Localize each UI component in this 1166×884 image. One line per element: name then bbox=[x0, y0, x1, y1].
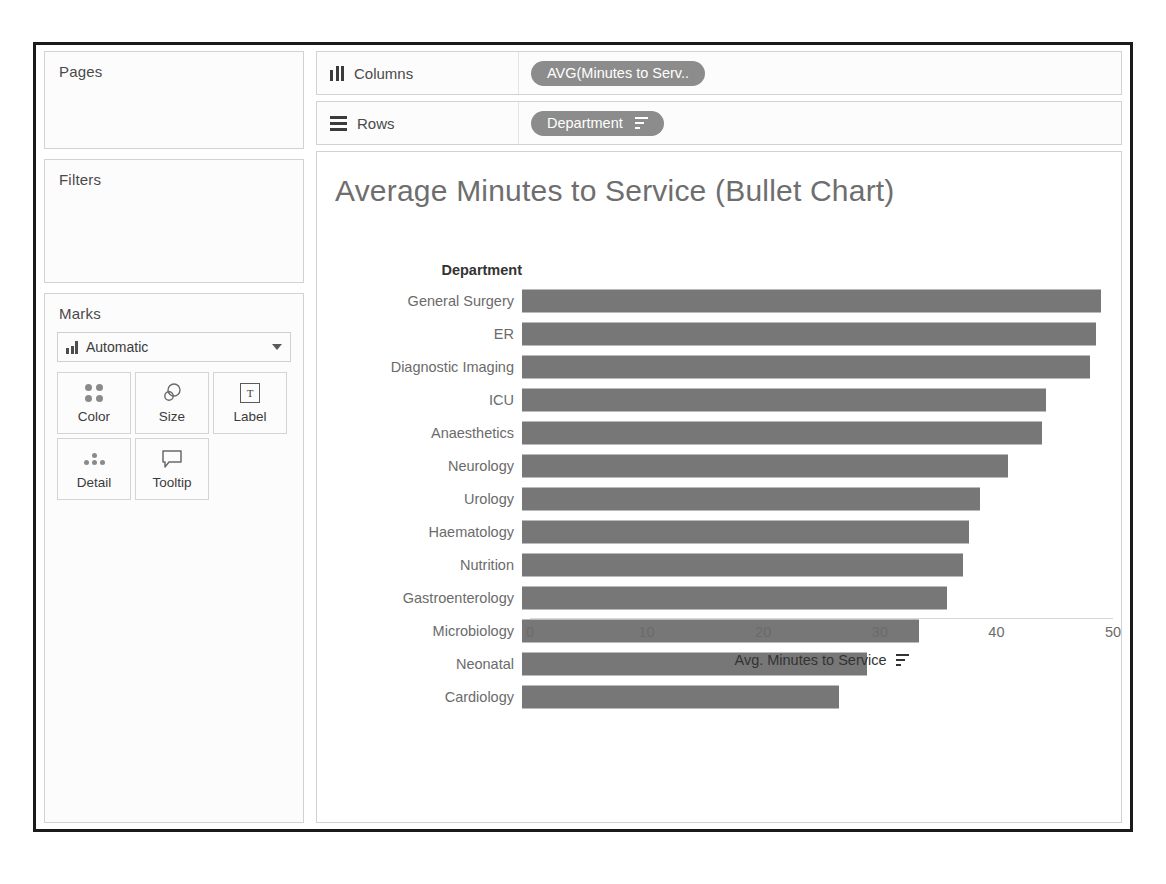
bar-mark[interactable] bbox=[522, 553, 963, 576]
bar-track bbox=[522, 548, 1121, 581]
bar-track bbox=[522, 449, 1121, 482]
marks-card-title: Marks bbox=[45, 294, 303, 322]
x-tick-label: 20 bbox=[755, 624, 771, 640]
row-label-nutrition[interactable]: Nutrition bbox=[317, 557, 522, 573]
columns-shelf[interactable]: Columns AVG(Minutes to Serv.. bbox=[316, 51, 1122, 95]
chart-view-pane[interactable]: Average Minutes to Service (Bullet Chart… bbox=[316, 151, 1122, 823]
bar-track bbox=[522, 515, 1121, 548]
bar-mark[interactable] bbox=[522, 586, 947, 609]
row-label-neonatal[interactable]: Neonatal bbox=[317, 656, 522, 672]
x-tick-label: 0 bbox=[526, 624, 534, 640]
chart-row: Anaesthetics bbox=[317, 416, 1121, 449]
color-dots-icon bbox=[85, 382, 103, 404]
label-text-icon: T bbox=[240, 382, 260, 404]
chevron-down-icon[interactable] bbox=[272, 344, 282, 350]
marks-size-label: Size bbox=[159, 409, 185, 424]
columns-shelf-label-group: Columns bbox=[317, 52, 519, 94]
bar-mark-icon bbox=[66, 341, 78, 354]
row-label-microbiology[interactable]: Microbiology bbox=[317, 623, 522, 639]
rows-icon bbox=[330, 116, 347, 131]
bar-mark[interactable] bbox=[522, 685, 839, 708]
chart-row: ER bbox=[317, 317, 1121, 350]
x-tick-label: 10 bbox=[639, 624, 655, 640]
marks-detail-label: Detail bbox=[77, 475, 112, 490]
shelves-sidebar: Pages Filters Marks Automatic Color bbox=[36, 45, 312, 829]
bar-mark[interactable] bbox=[522, 388, 1046, 411]
marks-color-button[interactable]: Color bbox=[57, 372, 131, 434]
pill-label: Department bbox=[547, 115, 623, 131]
row-label-diagnostic-imaging[interactable]: Diagnostic Imaging bbox=[317, 359, 522, 375]
columns-shelf-dropzone[interactable]: AVG(Minutes to Serv.. bbox=[519, 52, 1121, 94]
row-label-haematology[interactable]: Haematology bbox=[317, 524, 522, 540]
row-label-icu[interactable]: ICU bbox=[317, 392, 522, 408]
plot-area: Department General SurgeryERDiagnostic I… bbox=[317, 262, 1121, 822]
bar-track bbox=[522, 284, 1121, 317]
chart-row: Diagnostic Imaging bbox=[317, 350, 1121, 383]
marks-card[interactable]: Marks Automatic Color bbox=[44, 293, 304, 823]
worksheet-main: Columns AVG(Minutes to Serv.. Rows Depar… bbox=[312, 45, 1130, 829]
sort-descending-icon[interactable] bbox=[896, 654, 909, 667]
row-label-er[interactable]: ER bbox=[317, 326, 522, 342]
x-axis-line bbox=[530, 618, 1113, 619]
row-label-cardiology[interactable]: Cardiology bbox=[317, 689, 522, 705]
columns-shelf-label: Columns bbox=[354, 65, 413, 82]
marks-color-label: Color bbox=[78, 409, 110, 424]
x-tick-label: 40 bbox=[988, 624, 1004, 640]
bar-track bbox=[522, 317, 1121, 350]
bar-mark[interactable] bbox=[522, 520, 969, 543]
filters-card[interactable]: Filters bbox=[44, 159, 304, 283]
detail-dots-icon bbox=[84, 448, 105, 470]
chart-row: ICU bbox=[317, 383, 1121, 416]
mark-type-label: Automatic bbox=[86, 339, 264, 355]
x-axis-ticks: 01020304050 bbox=[530, 624, 1113, 646]
pill-avg-minutes-to-service[interactable]: AVG(Minutes to Serv.. bbox=[531, 61, 705, 86]
tableau-worksheet-window: Pages Filters Marks Automatic Color bbox=[33, 42, 1133, 832]
row-axis-header: Department bbox=[317, 262, 522, 278]
bar-mark[interactable] bbox=[522, 355, 1090, 378]
x-axis-title[interactable]: Avg. Minutes to Service bbox=[530, 652, 1113, 668]
marks-buttons-group: Color Size T Label bbox=[57, 372, 291, 500]
marks-size-button[interactable]: Size bbox=[135, 372, 209, 434]
pages-card-title: Pages bbox=[45, 52, 303, 80]
size-circles-icon bbox=[160, 382, 184, 404]
sort-descending-icon[interactable] bbox=[635, 117, 648, 130]
chart-row: Urology bbox=[317, 482, 1121, 515]
x-axis-title-label: Avg. Minutes to Service bbox=[734, 652, 886, 668]
pill-department[interactable]: Department bbox=[531, 111, 664, 136]
bar-track bbox=[522, 581, 1121, 614]
x-tick-label: 30 bbox=[872, 624, 888, 640]
bar-track bbox=[522, 680, 1121, 713]
row-label-gastroenterology[interactable]: Gastroenterology bbox=[317, 590, 522, 606]
pages-card[interactable]: Pages bbox=[44, 51, 304, 149]
row-label-neurology[interactable]: Neurology bbox=[317, 458, 522, 474]
row-label-general-surgery[interactable]: General Surgery bbox=[317, 293, 522, 309]
marks-tooltip-button[interactable]: Tooltip bbox=[135, 438, 209, 500]
row-label-anaesthetics[interactable]: Anaesthetics bbox=[317, 425, 522, 441]
pill-label: AVG(Minutes to Serv.. bbox=[547, 65, 689, 81]
bar-mark[interactable] bbox=[522, 289, 1101, 312]
marks-label-button[interactable]: T Label bbox=[213, 372, 287, 434]
page-title: Average Minutes to Service (Bullet Chart… bbox=[335, 174, 895, 208]
bar-track bbox=[522, 416, 1121, 449]
chart-row: Neurology bbox=[317, 449, 1121, 482]
bar-mark[interactable] bbox=[522, 454, 1008, 477]
chart-row: Gastroenterology bbox=[317, 581, 1121, 614]
chart-row: Nutrition bbox=[317, 548, 1121, 581]
marks-tooltip-label: Tooltip bbox=[152, 475, 191, 490]
chart-row: Haematology bbox=[317, 515, 1121, 548]
bar-mark[interactable] bbox=[522, 322, 1096, 345]
rows-shelf-dropzone[interactable]: Department bbox=[519, 102, 1121, 144]
rows-shelf[interactable]: Rows Department bbox=[316, 101, 1122, 145]
rows-shelf-label: Rows bbox=[357, 115, 395, 132]
marks-label-label: Label bbox=[233, 409, 266, 424]
row-label-urology[interactable]: Urology bbox=[317, 491, 522, 507]
bar-track bbox=[522, 350, 1121, 383]
x-tick-label: 50 bbox=[1105, 624, 1121, 640]
mark-type-dropdown[interactable]: Automatic bbox=[57, 332, 291, 362]
chart-row: General Surgery bbox=[317, 284, 1121, 317]
tooltip-bubble-icon bbox=[160, 448, 184, 470]
bar-mark[interactable] bbox=[522, 487, 980, 510]
bar-mark[interactable] bbox=[522, 421, 1042, 444]
marks-detail-button[interactable]: Detail bbox=[57, 438, 131, 500]
chart-row: Cardiology bbox=[317, 680, 1121, 713]
